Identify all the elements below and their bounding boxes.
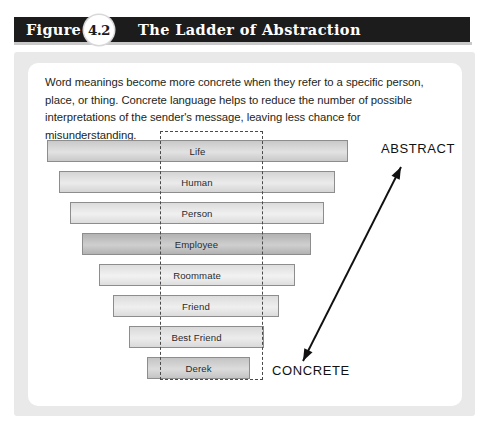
- figure-number-text: 4.2: [88, 24, 110, 37]
- figure-root: Figure The Ladder of Abstraction 4.2 Wor…: [0, 0, 490, 430]
- figure-label-word: Figure: [26, 21, 81, 38]
- label-abstract: ABSTRACT: [381, 141, 455, 156]
- figure-header-bar: Figure The Ladder of Abstraction: [14, 17, 470, 42]
- focus-dashed-box: [160, 131, 263, 380]
- figure-number-badge: 4.2: [84, 15, 114, 45]
- label-concrete: CONCRETE: [272, 363, 350, 378]
- figure-title: The Ladder of Abstraction: [138, 21, 361, 38]
